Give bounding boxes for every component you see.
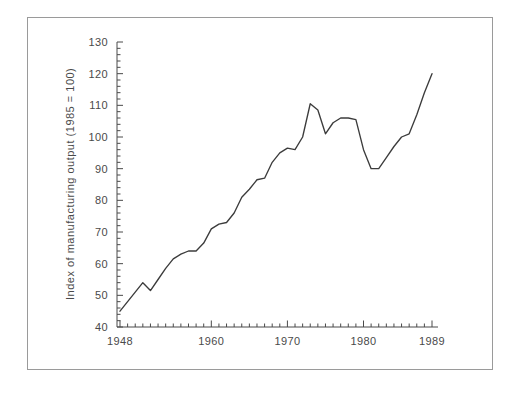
- x-tick-label: 1948: [107, 335, 133, 347]
- y-axis-label: Index of manufacturing output (1985 = 10…: [64, 68, 76, 300]
- y-tick-label: 110: [89, 99, 108, 111]
- y-tick-label: 70: [95, 226, 108, 238]
- y-minor-tick-group: [117, 48, 121, 320]
- y-tick-label: 40: [95, 321, 108, 333]
- x-tick-group: [120, 321, 432, 328]
- y-tick-label: 100: [88, 131, 108, 143]
- x-tick-label: 1960: [198, 335, 224, 347]
- x-tick-label: 1980: [350, 335, 376, 347]
- data-series-line: [120, 74, 432, 312]
- y-major-tick-group: [117, 42, 123, 327]
- x-tick-label-group: 19481960197019801989: [107, 335, 445, 347]
- y-tick-label: 130: [88, 36, 108, 48]
- y-tick-label: 50: [95, 289, 108, 301]
- y-tick-label: 80: [95, 194, 108, 206]
- y-tick-label-group: 405060708090100110120130: [88, 36, 108, 333]
- y-tick-label: 90: [95, 163, 108, 175]
- y-tick-label: 120: [88, 68, 108, 80]
- x-tick-label: 1970: [274, 335, 300, 347]
- y-tick-label: 60: [95, 258, 108, 270]
- axis-lines: [117, 42, 438, 327]
- page-canvas: Index of manufacturing output (1985 = 10…: [0, 0, 518, 395]
- line-chart: Index of manufacturing output (1985 = 10…: [0, 0, 518, 395]
- x-tick-label: 1989: [419, 335, 445, 347]
